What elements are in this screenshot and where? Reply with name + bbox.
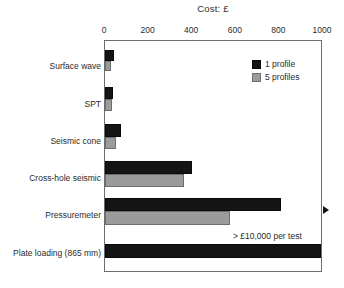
legend-label-5-profiles: 5 profiles [265,72,300,82]
bar-surface-wave-1-profile [105,50,114,61]
category-label-plate-loading: Plate loading (865 mm) [2,248,104,258]
x-tick-label-600: 600 [228,25,242,35]
x-tick-label-400: 400 [184,25,198,35]
legend-swatch-icon-1-profile [252,60,261,69]
category-label-surface-wave: Surface wave [2,61,104,71]
bar-cross-hole-seismic-1-profile [105,161,192,174]
x-tick-label-800: 800 [271,25,285,35]
bar-spt-1-profile [105,87,113,99]
legend-item-1-profile: 1 profile [252,58,300,70]
category-label-seismic-cone: Seismic cone [2,136,104,146]
y-axis-category-labels: Surface wave SPT Seismic cone Cross-hole… [0,40,104,272]
bar-pressuremeter-5-profiles [105,211,230,225]
legend-label-1-profile: 1 profile [265,59,295,69]
category-label-spt: SPT [2,99,104,109]
chart-legend: 1 profile 5 profiles [252,58,300,84]
bar-seismic-cone-5-profiles [105,137,116,149]
x-axis-tick-labels: 0 200 400 600 800 1000 [104,25,322,37]
bar-surface-wave-5-profiles [105,61,111,71]
x-tick-label-0: 0 [102,25,107,35]
bar-seismic-cone-1-profile [105,124,121,137]
category-label-cross-hole-seismic: Cross-hole seismic [2,173,104,183]
legend-item-5-profiles: 5 profiles [252,71,300,83]
category-label-pressuremeter: Pressuremeter [2,210,104,220]
chart-title: Cost: £ [104,3,322,14]
bar-spt-5-profiles [105,99,112,111]
annotation-over-10000-per-test: > £10,000 per test [233,231,302,241]
bar-chart-figure: Cost: £ 0 200 400 600 800 1000 Surface w… [0,0,344,288]
caption-remnant [0,279,344,288]
legend-swatch-icon-5-profiles [252,73,261,82]
overflow-arrow-icon [323,206,329,214]
bar-plate-loading-1-profile [105,244,321,258]
x-tick-label-1000: 1000 [313,25,332,35]
x-tick-label-200: 200 [141,25,155,35]
bar-cross-hole-seismic-5-profiles [105,174,184,187]
bar-pressuremeter-1-profile [105,198,281,211]
